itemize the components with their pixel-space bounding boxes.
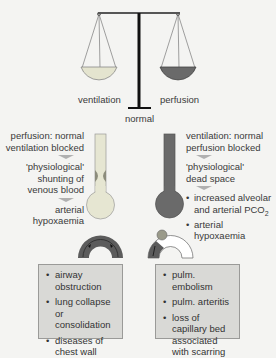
left-effect-line3: venous blood [0, 184, 84, 196]
down-caret-icon [196, 155, 212, 159]
right-result2-line2: hypoxaemia [194, 230, 276, 242]
pco-text: and arterial PCO [194, 204, 265, 215]
right-panel-text: ventilation: normal perfusion blocked 'p… [186, 130, 276, 242]
right-result2: • arterial hypoxaemia [186, 219, 276, 242]
ventilation-label: ventilation [78, 94, 121, 106]
left-result-line2: hypoxaemia [0, 215, 84, 227]
right-result1-line1: increased alveolar [194, 192, 276, 204]
left-panel-text: perfusion: normal ventilation blocked 'p… [0, 130, 84, 227]
cause-item: lung collapse or consolidation [55, 296, 116, 331]
bullet-icon: • [186, 219, 189, 231]
left-effect-line1: 'physiological' [0, 161, 84, 173]
cause-item: diseases of chest wall [55, 335, 116, 358]
cause-item: loss of capillary bed associated with sc… [172, 312, 233, 358]
down-caret-icon [58, 198, 74, 202]
embolus [157, 230, 167, 240]
perfusion-label: perfusion [160, 94, 199, 106]
cause-item: pulm. arteritis [172, 296, 233, 308]
left-title-line1: perfusion: normal [0, 130, 84, 142]
cause-item: airway obstruction [55, 269, 116, 292]
right-result1: • increased alveolar and arterial PCO2 [186, 192, 276, 219]
pco-subscript: 2 [265, 209, 269, 216]
cause-item: pulm. embolism [172, 269, 233, 292]
perfusion-pan [160, 67, 196, 80]
right-effect-line2: dead space [186, 173, 276, 185]
right-result2-line1: arterial [194, 219, 276, 231]
bullet-icon: • [186, 192, 189, 204]
right-effect-line1: 'physiological' [186, 161, 276, 173]
left-result-line1: arterial [0, 204, 84, 216]
left-effect-line2: shunting of [0, 173, 84, 185]
down-caret-icon [196, 186, 212, 190]
ventilation-pan [81, 67, 117, 80]
normal-label: normal [125, 113, 154, 125]
left-title-line2: ventilation blocked [0, 142, 84, 154]
left-causes-box: airway obstruction lung collapse or cons… [38, 264, 123, 339]
down-caret-icon [58, 155, 74, 159]
blocked-ventilation-alveolus [78, 134, 123, 258]
right-title-line2: perfusion blocked [186, 142, 276, 154]
right-causes-box: pulm. embolism pulm. arteritis loss of c… [155, 264, 240, 339]
right-title-line1: ventilation: normal [186, 130, 276, 142]
right-result1-line2: and arterial PCO2 [194, 204, 276, 219]
